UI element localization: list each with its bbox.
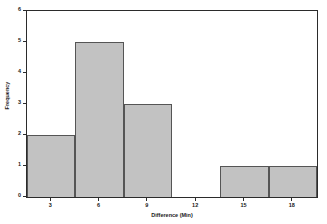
x-tick-mark [146,198,147,201]
y-tick-label: 1 [18,161,21,167]
x-tick-label: 3 [49,202,52,209]
histogram-bar [124,104,172,197]
y-tick-mark [23,10,26,11]
x-tick-mark [98,198,99,201]
x-tick-label: 18 [289,202,295,209]
y-axis-title: Frequency [4,68,11,124]
y-tick-mark [23,103,26,104]
histogram-bar [27,135,75,197]
y-tick-label: 3 [18,99,21,105]
x-tick-mark [195,198,196,201]
histogram-bar [75,42,123,197]
x-tick-label: 6 [97,202,100,209]
y-tick-label: 0 [18,192,21,198]
histogram-bar [220,166,268,197]
y-tick-mark [23,196,26,197]
histogram-bar [269,166,317,197]
x-tick-mark [243,198,244,201]
x-axis-title: Difference (Min) [26,212,318,219]
y-tick-mark [23,72,26,73]
plot-area [26,10,318,198]
x-tick-mark [291,198,292,201]
y-tick-label: 5 [18,37,21,43]
y-tick-mark [23,165,26,166]
histogram-chart: 0123456 369121518 Difference (Min) Frequ… [0,0,327,224]
y-tick-mark [23,41,26,42]
x-axis: 369121518 [26,198,318,212]
x-tick-label: 12 [192,202,198,209]
y-tick-label: 2 [18,130,21,136]
x-tick-mark [50,198,51,201]
y-tick-mark [23,134,26,135]
y-tick-label: 6 [18,6,21,12]
y-tick-label: 4 [18,68,21,74]
x-tick-label: 15 [240,202,246,209]
x-tick-label: 9 [145,202,148,209]
